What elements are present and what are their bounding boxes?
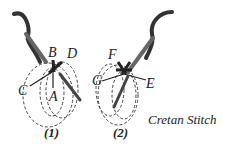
label-d: D	[66, 46, 77, 61]
label-g: G	[92, 73, 102, 88]
figure-1: B D C A (1)	[14, 13, 80, 140]
caption-1: (1)	[44, 125, 59, 140]
needle-lower-icon	[114, 76, 128, 107]
label-f: F	[107, 47, 117, 62]
diagram-title: Cretan Stitch	[148, 112, 217, 127]
label-b: B	[48, 45, 57, 60]
label-c: C	[18, 83, 28, 98]
cretan-stitch-diagram: B D C A (1) F E G (2) Cretan Stitch	[0, 0, 227, 154]
stitch-line-g	[102, 74, 124, 81]
needle-lower-icon	[60, 74, 80, 100]
label-a: A	[48, 89, 58, 104]
caption-2: (2)	[113, 125, 128, 140]
thread-icon	[146, 12, 172, 58]
guide-oval-left	[96, 64, 124, 116]
label-e: E	[145, 76, 155, 91]
